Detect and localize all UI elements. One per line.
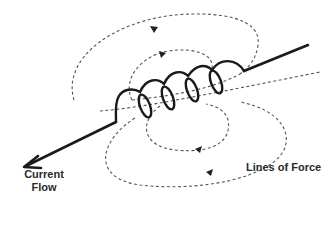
current-flow-label-line2: Flow [14, 181, 74, 194]
coil-loop-2 [183, 77, 201, 103]
field-arrow-inner-bottom [195, 146, 202, 153]
coil-loop-1 [207, 69, 225, 95]
field-line-inner-bottom [146, 104, 228, 151]
field-line-outer-bottom [106, 102, 287, 187]
lines-of-force-label: Lines of Force [246, 161, 321, 174]
field-arrow-outer-bottom [206, 169, 213, 176]
current-flow-label: Current Flow [14, 168, 74, 194]
current-flow-label-line1: Current [14, 168, 74, 181]
wire-right-lead [244, 45, 308, 71]
wire-left-lead [26, 122, 116, 166]
coil-loop-3 [159, 85, 177, 111]
coil-loop-4 [136, 93, 154, 119]
field-arrow-outer-top [150, 26, 158, 33]
